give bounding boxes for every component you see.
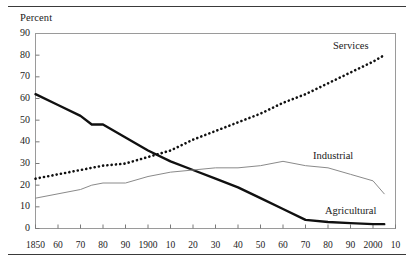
y-tick-label: 80 (8, 49, 30, 60)
series-label-agricultural: Agricultural (325, 205, 376, 216)
plot-frame (36, 34, 396, 229)
y-tick-label: 90 (8, 27, 30, 38)
y-tick-label: 0 (8, 222, 30, 233)
series-label-industrial: Industrial (313, 150, 353, 161)
y-tick-label: 40 (8, 135, 30, 146)
series-line-industrial (36, 161, 385, 198)
data-series (36, 55, 385, 224)
y-tick-label: 20 (8, 179, 30, 190)
y-tick-label: 70 (8, 70, 30, 81)
chart-figure: Percent 0102030405060708090 185060708090… (0, 0, 414, 261)
y-tick-label: 60 (8, 92, 30, 103)
y-tick-label: 30 (8, 157, 30, 168)
axis-ticks (36, 55, 396, 228)
y-tick-label: 50 (8, 114, 30, 125)
series-label-services: Services (333, 40, 369, 51)
y-tick-label: 10 (8, 200, 30, 211)
x-tick-label: 10 (382, 240, 410, 250)
